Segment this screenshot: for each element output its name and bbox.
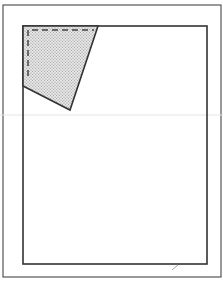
faint-mark	[172, 265, 178, 270]
shaded-region	[23, 26, 98, 110]
diagram-canvas	[0, 0, 223, 281]
